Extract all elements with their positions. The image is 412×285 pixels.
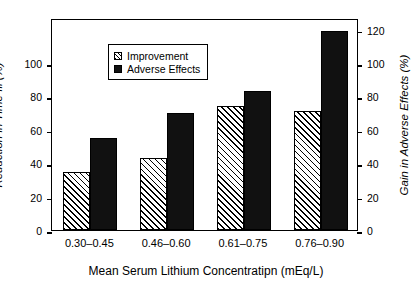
left-tick-label-60: 60	[0, 126, 42, 137]
x-tick-label-2: 0.46–0.60	[142, 237, 191, 249]
left-tick-mark-100	[47, 65, 52, 67]
right-tick-label-0: 0	[367, 226, 373, 237]
x-tick-label-4: 0.76–0.90	[295, 237, 344, 249]
bar-improvement-2	[140, 158, 167, 230]
right-tick-label-60: 60	[367, 126, 379, 137]
legend: Improvement Adverse Effects	[108, 44, 208, 80]
bar-adverse-effects-1	[90, 138, 117, 230]
hatch-swatch-icon	[114, 52, 122, 60]
left-tick-mark-20	[47, 199, 52, 201]
legend-label-improvement: Improvement	[127, 50, 188, 62]
bar-adverse-effects-3	[244, 91, 271, 230]
bar-improvement-1	[63, 172, 90, 230]
right-axis-title: Gain in Adverse Effects (%)	[398, 55, 410, 196]
legend-item-adverse-effects: Adverse Effects	[114, 62, 200, 75]
left-tick-label-80: 80	[0, 92, 42, 103]
right-tick-label-100: 100	[367, 59, 385, 70]
left-tick-label-20: 20	[0, 193, 42, 204]
solid-swatch-icon	[114, 65, 122, 73]
right-tick-mark-120	[357, 32, 362, 34]
right-tick-label-80: 80	[367, 92, 379, 103]
bar-adverse-effects-2	[167, 113, 194, 230]
left-tick-mark-0	[47, 232, 52, 234]
left-tick-label-40: 40	[0, 159, 42, 170]
legend-label-adverse-effects: Adverse Effects	[127, 63, 200, 75]
right-tick-mark-40	[357, 165, 362, 167]
bar-improvement-4	[294, 111, 321, 230]
left-tick-mark-60	[47, 132, 52, 134]
right-tick-mark-60	[357, 132, 362, 134]
x-axis-title: Mean Serum Lithium Concentratipn (mEq/L)	[0, 264, 412, 278]
right-tick-label-120: 120	[367, 26, 385, 37]
left-tick-label-100: 100	[0, 59, 42, 70]
right-tick-mark-100	[357, 65, 362, 67]
bar-improvement-3	[217, 106, 244, 230]
right-tick-label-20: 20	[367, 193, 379, 204]
right-tick-label-40: 40	[367, 159, 379, 170]
right-tick-mark-80	[357, 98, 362, 100]
left-tick-mark-40	[47, 165, 52, 167]
right-tick-mark-0	[357, 232, 362, 234]
bar-adverse-effects-4	[321, 31, 348, 230]
bar-chart-figure: Reduction in Time Ill (%) Gain in Advers…	[0, 0, 412, 285]
x-tick-label-3: 0.61–0.75	[218, 237, 267, 249]
right-tick-mark-20	[357, 199, 362, 201]
left-tick-mark-80	[47, 98, 52, 100]
left-tick-label-0: 0	[0, 226, 42, 237]
legend-item-improvement: Improvement	[114, 49, 200, 62]
plot-area: Improvement Adverse Effects	[51, 19, 358, 231]
x-tick-label-1: 0.30–0.45	[65, 237, 114, 249]
